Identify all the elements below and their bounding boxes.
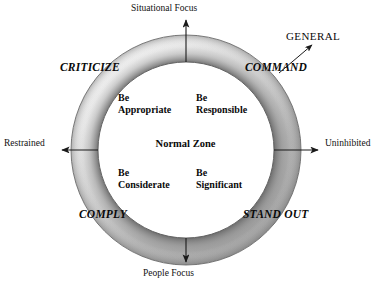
quadrant-label-stand-out: STAND OUT — [243, 208, 308, 220]
inner-label-be-considerate: Be Considerate — [118, 167, 170, 190]
inner-label-line1: Be — [118, 167, 170, 179]
inner-label-line2: Considerate — [118, 179, 170, 191]
quadrant-label-command: COMMAND — [245, 61, 307, 73]
inner-label-be-significant: Be Significant — [196, 167, 242, 190]
diagram-canvas: Situational Focus People Focus Restraine… — [0, 0, 371, 288]
quadrant-label-comply: COMPLY — [79, 208, 127, 220]
inner-label-be-responsible: Be Responsible — [196, 92, 247, 115]
inner-label-line1: Be — [196, 167, 242, 179]
axis-label-people-focus: People Focus — [143, 268, 194, 279]
quadrant-label-criticize: CRITICIZE — [60, 61, 120, 73]
inner-label-line1: Be — [196, 92, 247, 104]
inner-label-be-appropriate: Be Appropriate — [118, 92, 171, 115]
inner-label-line2: Responsible — [196, 104, 247, 116]
inner-label-line1: Be — [118, 92, 171, 104]
center-label-normal-zone: Normal Zone — [0, 138, 371, 149]
inner-label-line2: Significant — [196, 179, 242, 191]
inner-label-line2: Appropriate — [118, 104, 171, 116]
axis-label-situational-focus: Situational Focus — [131, 3, 197, 14]
callout-label-general: GENERAL — [286, 30, 340, 42]
